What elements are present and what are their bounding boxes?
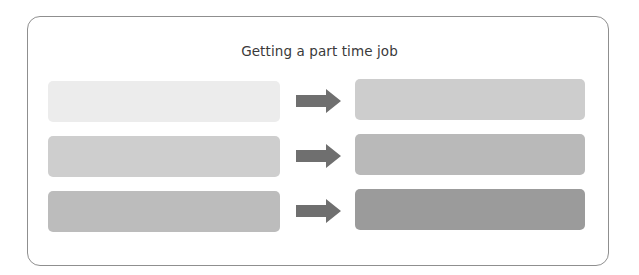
right-box-3	[355, 189, 585, 230]
right-arrow-icon	[296, 144, 341, 168]
right-arrow-icon	[296, 89, 341, 113]
left-box-1	[48, 81, 280, 122]
diagram-title: Getting a part time job	[0, 43, 639, 59]
left-box-3	[48, 191, 280, 232]
right-arrow-icon	[296, 199, 341, 223]
right-box-2	[355, 134, 585, 175]
right-box-1	[355, 79, 585, 120]
left-box-2	[48, 136, 280, 177]
